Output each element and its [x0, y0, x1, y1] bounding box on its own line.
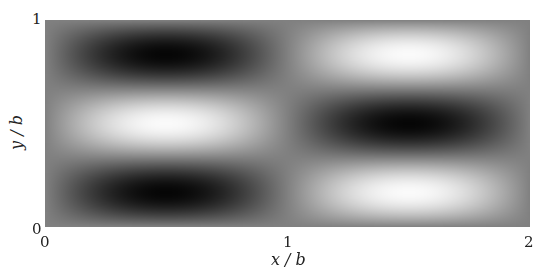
x-tick-0: 0 — [40, 233, 50, 251]
heatmap-canvas — [45, 20, 530, 227]
x-tick-1: 1 — [283, 233, 293, 251]
y-tick-1: 1 — [32, 10, 42, 28]
y-axis-label: y / b — [7, 113, 26, 153]
heatmap-plot-area — [45, 20, 530, 227]
x-tick-2: 2 — [524, 233, 534, 251]
x-axis-label: x / b — [271, 250, 306, 269]
